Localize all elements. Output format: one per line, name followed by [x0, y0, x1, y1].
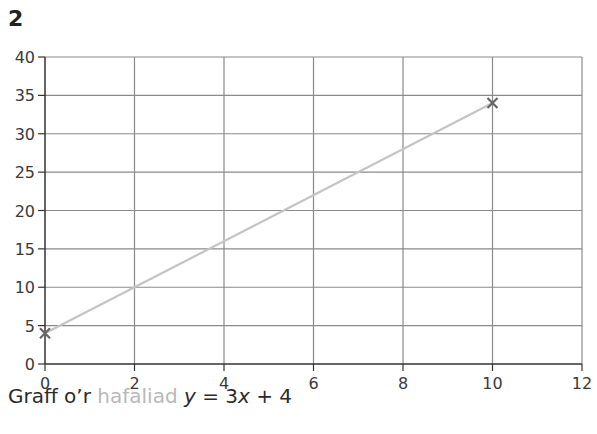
- y-tick-label: 5: [25, 317, 35, 336]
- equation: y = 3x + 4: [178, 384, 292, 408]
- y-tick-label: 10: [15, 278, 35, 297]
- x-tick-label: 10: [482, 374, 502, 393]
- y-tick-label: 40: [15, 48, 35, 67]
- y-tick-label: 25: [15, 163, 35, 182]
- x-tick-label: 6: [308, 374, 318, 393]
- caption-prefix: Graff o’r: [8, 384, 97, 408]
- x-tick-label: 12: [572, 374, 592, 393]
- chart-caption: Graff o’r hafaliad y = 3x + 4: [8, 384, 292, 408]
- y-tick-label: 0: [25, 355, 35, 374]
- y-tick-label: 20: [15, 202, 35, 221]
- x-tick-label: 8: [398, 374, 408, 393]
- series-line: [45, 103, 493, 333]
- y-tick-label: 30: [15, 125, 35, 144]
- caption-highlight-word[interactable]: hafaliad: [97, 384, 177, 408]
- y-tick-label: 15: [15, 240, 35, 259]
- y-tick-label: 35: [15, 86, 35, 105]
- line-chart: 0510152025303540024681012: [0, 0, 597, 434]
